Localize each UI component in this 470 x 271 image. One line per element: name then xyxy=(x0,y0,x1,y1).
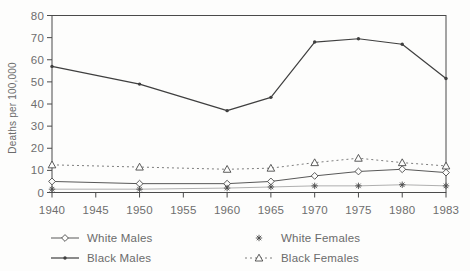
legend-label-white-females: White Females xyxy=(281,232,360,244)
black-females-marker-icon xyxy=(244,252,274,264)
y-tick-label: 10 xyxy=(31,164,44,176)
legend-item-white-females: White Females xyxy=(244,231,360,244)
y-tick-label: 50 xyxy=(31,76,44,88)
x-tick-label: 1983 xyxy=(433,204,459,216)
y-tick-label: 60 xyxy=(31,54,44,66)
legend-item-black-males: Black Males xyxy=(50,251,151,264)
x-tick-label: 1980 xyxy=(389,204,415,216)
legend-item-black-females: Black Females xyxy=(244,251,359,264)
x-tick-label: 1955 xyxy=(170,204,196,216)
x-tick-label: 1965 xyxy=(258,204,284,216)
x-tick-label: 1950 xyxy=(126,204,152,216)
x-tick-label: 1960 xyxy=(214,204,240,216)
series-black-males xyxy=(50,37,447,112)
y-axis: 01020304050607080 xyxy=(31,10,52,199)
legend-label-black-males: Black Males xyxy=(87,252,151,264)
y-tick-label: 80 xyxy=(31,10,44,22)
y-tick-label: 40 xyxy=(31,98,44,110)
y-tick-label: 70 xyxy=(31,32,44,44)
y-tick-label: 30 xyxy=(31,120,44,132)
legend-label-black-females: Black Females xyxy=(281,252,359,264)
legend-label-white-males: White Males xyxy=(87,232,152,244)
x-tick-label: 1940 xyxy=(39,204,65,216)
x-axis: 1940194519501955196019651970197519801983 xyxy=(39,193,459,217)
deaths-per-100000-line-chart: Deaths per 100,000 194019451950195519601… xyxy=(0,0,470,271)
y-tick-label: 20 xyxy=(31,142,44,154)
black-males-marker-icon xyxy=(50,252,80,264)
series-white-males xyxy=(49,166,450,187)
white-females-marker-icon xyxy=(244,232,274,244)
x-tick-label: 1970 xyxy=(301,204,327,216)
plot-area: 1940194519501955196019651970197519801983… xyxy=(0,0,470,222)
legend-item-white-males: White Males xyxy=(50,231,152,244)
x-tick-label: 1975 xyxy=(345,204,371,216)
white-males-marker-icon xyxy=(50,232,80,244)
y-tick-label: 0 xyxy=(37,187,44,199)
x-tick-label: 1945 xyxy=(83,204,109,216)
